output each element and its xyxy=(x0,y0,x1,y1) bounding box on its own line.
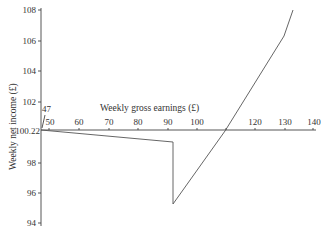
x-axis-title: Weekly gross earnings (£) xyxy=(100,103,199,114)
y-tick-label: 104 xyxy=(23,66,37,76)
net-income-chart: 108 106 104 102 100.22 98 96 94 50 60 70… xyxy=(0,0,328,234)
x-tick-label: 140 xyxy=(307,117,321,127)
x-tick-label: 80 xyxy=(134,117,144,127)
x-tick-label: 120 xyxy=(248,117,262,127)
x-tick-label: 130 xyxy=(278,117,292,127)
y-axis-title: Weekly net income (£) xyxy=(8,83,19,170)
y-tick-label: 102 xyxy=(23,97,37,107)
origin-x-label: 47 xyxy=(42,104,52,114)
y-tick-label: 100.22 xyxy=(15,126,40,136)
y-tick-label: 106 xyxy=(23,36,37,46)
y-tick-label: 108 xyxy=(23,5,37,15)
x-tick-label: 90 xyxy=(164,117,174,127)
y-tick-label: 96 xyxy=(27,188,37,198)
x-tick-label: 50 xyxy=(46,117,56,127)
y-tick-labels: 108 106 104 102 100.22 98 96 94 xyxy=(15,5,40,228)
x-tick-label: 70 xyxy=(105,117,115,127)
x-tick-labels: 50 60 70 80 90 100 120 130 140 xyxy=(46,117,322,127)
y-tick-label: 98 xyxy=(27,158,37,168)
y-tick-label: 94 xyxy=(27,218,37,228)
x-tick-label: 60 xyxy=(75,117,85,127)
x-tick-label: 100 xyxy=(190,117,204,127)
